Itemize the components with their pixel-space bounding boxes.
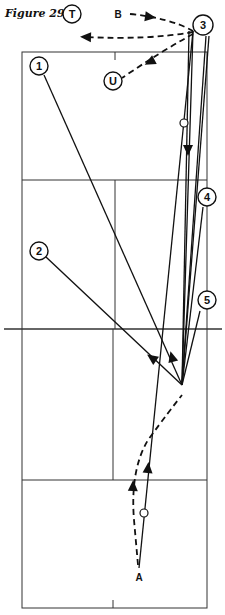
player-label: 4 <box>204 191 211 203</box>
arrowheads <box>80 11 193 491</box>
arrowhead-icon <box>80 32 91 42</box>
player-4: 4 <box>198 188 216 206</box>
player-label: 1 <box>36 60 42 72</box>
label-B: B <box>114 9 121 20</box>
player-label: U <box>109 75 117 87</box>
player-1: 1 <box>30 57 48 75</box>
shot-line-from-2 <box>46 257 182 385</box>
movement-path-3-to-U <box>122 34 193 78</box>
shuttle-marker-icon <box>140 509 148 517</box>
label-A: A <box>135 572 142 583</box>
player-3: 3 <box>193 15 213 35</box>
arrowhead-icon <box>144 350 159 365</box>
player-5: 5 <box>198 291 216 309</box>
movement-paths <box>84 14 193 565</box>
player-label: 5 <box>204 294 210 306</box>
arrowhead-icon <box>128 480 138 491</box>
movement-path-3-to-T <box>84 32 193 38</box>
player-label: 3 <box>200 19 206 31</box>
movement-path-B-to-3 <box>130 14 193 31</box>
court-diagram: 3TU1245 BA <box>0 0 225 615</box>
court-boundary <box>22 52 207 608</box>
player-T: T <box>63 5 81 23</box>
point-labels: BA <box>114 9 142 583</box>
arrowhead-icon <box>183 145 193 156</box>
player-label: 2 <box>36 245 42 257</box>
shuttle-marker-icon <box>180 119 188 127</box>
player-2: 2 <box>30 242 48 260</box>
player-label: T <box>69 8 76 20</box>
shot-lines <box>44 31 209 568</box>
player-U: U <box>104 72 122 90</box>
arrowhead-icon <box>143 462 154 474</box>
